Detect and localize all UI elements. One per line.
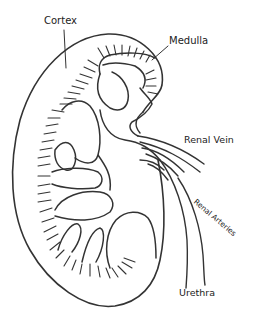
label-medulla: Medulla [169,36,208,46]
renal-pelvis-outline [99,53,155,136]
calyx-bottom [107,212,156,268]
calyx-upper [98,72,129,110]
calyx-lower-mid [55,192,113,220]
major-calyx-trunk [100,110,160,160]
calyx-lower-left [58,224,81,252]
renal-arteries [140,148,184,180]
calyx-upper-left [62,101,100,163]
calyx-mid-left [55,143,76,171]
label-cortex: Cortex [44,16,77,26]
kidney-illustration [0,0,271,322]
kidney-diagram: Cortex Medulla Renal Vein Renal Arteries… [0,0,271,322]
label-ureter: Urethra [179,288,215,298]
medulla-pointer [152,46,168,60]
cortex-pointer [64,30,66,68]
calyx-lower [82,228,103,262]
label-renal-vein: Renal Vein [184,135,234,145]
kidney-capsule [13,34,164,306]
calyx-mid [52,168,102,189]
